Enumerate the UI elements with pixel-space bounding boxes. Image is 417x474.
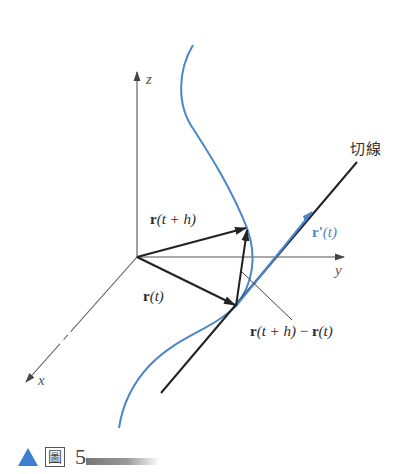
caption-gradient-bar (86, 458, 160, 465)
label-r-t: r(t) (143, 288, 164, 305)
z-axis-label: z (146, 71, 152, 88)
vector-r-t-plus-h (137, 228, 246, 257)
caption-triangle-icon (18, 448, 38, 466)
vector-derivative-diagram: z y x r(t + h) r(t) r(t + h) − r(t) r'(t… (0, 0, 417, 474)
label-r-t-plus-h: r(t + h) (150, 211, 196, 228)
x-axis (26, 257, 137, 382)
leader-line (242, 272, 292, 320)
label-difference: r(t + h) − r(t) (250, 323, 333, 340)
figure-caption: 圖 5 (18, 445, 160, 469)
x-axis-label: x (38, 372, 45, 389)
space-curve (119, 45, 253, 428)
label-derivative: r'(t) (312, 224, 337, 241)
diagram-canvas (0, 0, 417, 474)
caption-figure-glyph: 圖 (45, 447, 65, 467)
derivative-vector (236, 212, 312, 306)
caption-number: 5 (75, 446, 86, 468)
y-axis-label: y (335, 262, 342, 279)
label-tangent-line: 切線 (350, 137, 382, 158)
